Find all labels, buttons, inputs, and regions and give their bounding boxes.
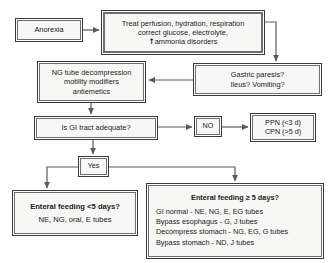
- node-enteral-lt-line-2: NE, NG, oral, E tubes: [15, 215, 135, 224]
- node-treat-line-2: correct glucose, electrolyte,: [105, 28, 261, 37]
- node-gastric-line-1: Gastric paresis?: [196, 70, 319, 79]
- node-treat-line-3: ↑ammonia disorders: [105, 37, 261, 46]
- node-yes-label: Yes: [81, 162, 106, 171]
- edge-yes-to-enteral-lt: [47, 167, 79, 188]
- node-anorexia[interactable]: Anorexia: [17, 20, 81, 40]
- node-ngtube-line-2: motility modifiers: [40, 77, 143, 86]
- node-gitract-line-1: Is GI tract adequate?: [37, 123, 155, 132]
- node-is-gi-tract-adequate[interactable]: Is GI tract adequate?: [36, 118, 156, 138]
- node-no[interactable]: NO: [196, 118, 220, 135]
- node-enteral-ge-line-3: Bypass esophagus - G, J tubes: [149, 217, 321, 227]
- node-enteral-feeding-long[interactable]: Enteral feeding ≥ 5 days? GI normal - NE…: [148, 185, 322, 257]
- node-enteral-lt-title: Enteral feeding <5 days?: [15, 202, 135, 211]
- edge-treat-to-gastric: [264, 22, 276, 61]
- node-ng-tube-decompression[interactable]: NG tube decompression motility modifiers…: [39, 63, 144, 101]
- node-treat-perfusion[interactable]: Treat perfusion, hydration, respiration …: [103, 12, 263, 53]
- node-gastric-line-2: Ileus? Vomiting?: [196, 80, 319, 89]
- flowchart-canvas: Anorexia Treat perfusion, hydration, res…: [0, 0, 331, 263]
- node-enteral-ge-line-5: Bypass stomach - ND, J tubes: [149, 238, 321, 248]
- node-treat-line-1: Treat perfusion, hydration, respiration: [105, 19, 261, 28]
- node-enteral-ge-line-2: GI normal - NE, NG, E, EG tubes: [149, 207, 321, 217]
- node-no-label: NO: [197, 122, 219, 131]
- node-parenteral-nutrition[interactable]: PPN (<3 d) CPN (>5 d): [252, 115, 314, 140]
- node-enteral-ge-title: Enteral feeding ≥ 5 days?: [149, 194, 321, 203]
- node-enteral-feeding-short[interactable]: Enteral feeding <5 days? NE, NG, oral, E…: [14, 192, 136, 234]
- node-ngtube-line-1: NG tube decompression: [40, 68, 143, 77]
- node-enteral-ge-line-4: Decompress stomach - NG, EG, G tubes: [149, 227, 321, 237]
- node-gastric-paresis[interactable]: Gastric paresis? Ileus? Vomiting?: [195, 65, 320, 94]
- node-treat-line-3-text: ammonia disorders: [155, 37, 218, 46]
- node-ppn-line-2: CPN (>5 d): [253, 128, 313, 137]
- node-ngtube-line-3: antiemetics: [40, 87, 143, 96]
- node-yes[interactable]: Yes: [80, 158, 107, 175]
- node-anorexia-line-1: Anorexia: [18, 25, 80, 34]
- edge-yes-to-enteral-ge: [108, 167, 235, 181]
